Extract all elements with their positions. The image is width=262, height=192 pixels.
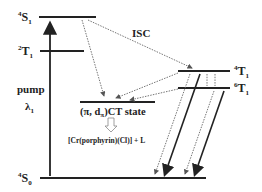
label-2T1: 2T1 bbox=[18, 44, 34, 60]
4S1-to-ct-wavy-arrow bbox=[82, 20, 104, 96]
ct-state-label: (π, dπ)CT state bbox=[80, 106, 146, 119]
energy-level-diagram: 4S1 2T1 4T1 6T1 4S0 pump λ1 ISC (π, dπ)C… bbox=[0, 0, 262, 192]
isc-label: ISC bbox=[132, 27, 150, 39]
dissociation-hollow-arrow bbox=[105, 118, 117, 132]
label-4T1: 4T1 bbox=[234, 64, 250, 80]
pump-wavelength-label: λ1 bbox=[25, 100, 34, 115]
label-4S0: 4S0 bbox=[18, 171, 32, 187]
product-label: [Cr(porphyrin)(Cl)] + L bbox=[68, 136, 145, 145]
label-4S1: 4S1 bbox=[18, 10, 32, 26]
4T1-to-ct-wavy-arrow bbox=[116, 73, 178, 98]
pump-label: pump bbox=[17, 83, 45, 95]
4T1-to-6T1-wavy-arrows bbox=[207, 74, 215, 86]
label-6T1: 6T1 bbox=[234, 81, 250, 97]
6T1-to-ct-wavy-arrow bbox=[130, 89, 178, 100]
